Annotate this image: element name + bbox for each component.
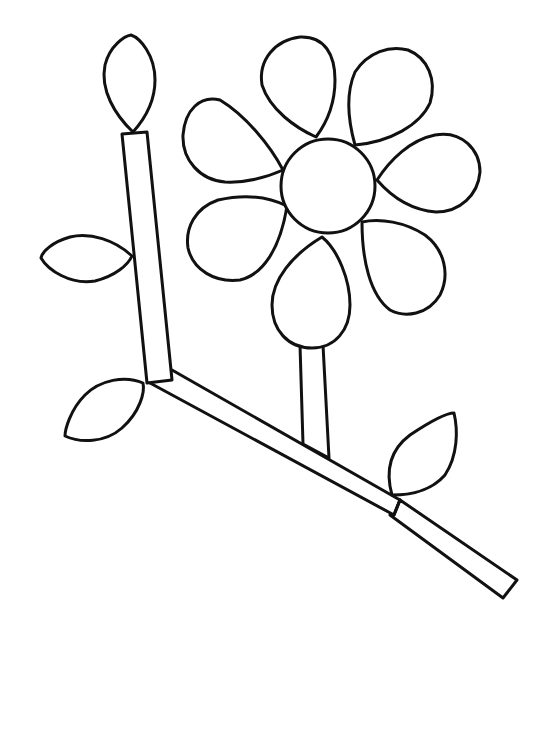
flower-stem xyxy=(300,345,329,458)
main-branch xyxy=(150,370,517,598)
flower-drawing xyxy=(0,0,550,746)
petal-icon xyxy=(187,197,287,281)
bud-icon xyxy=(104,35,155,132)
petal-icon xyxy=(183,99,283,182)
coloring-page-canvas xyxy=(0,0,550,746)
petal-icon xyxy=(349,48,433,145)
leaf-icon xyxy=(389,413,456,495)
petal-icon xyxy=(377,134,480,212)
flower-center-icon xyxy=(281,139,375,233)
petal-icon xyxy=(261,37,335,137)
petal-icon xyxy=(272,237,350,348)
leaf-icon xyxy=(41,236,132,282)
petal-icon xyxy=(362,221,445,315)
leaf-icon xyxy=(65,379,143,440)
